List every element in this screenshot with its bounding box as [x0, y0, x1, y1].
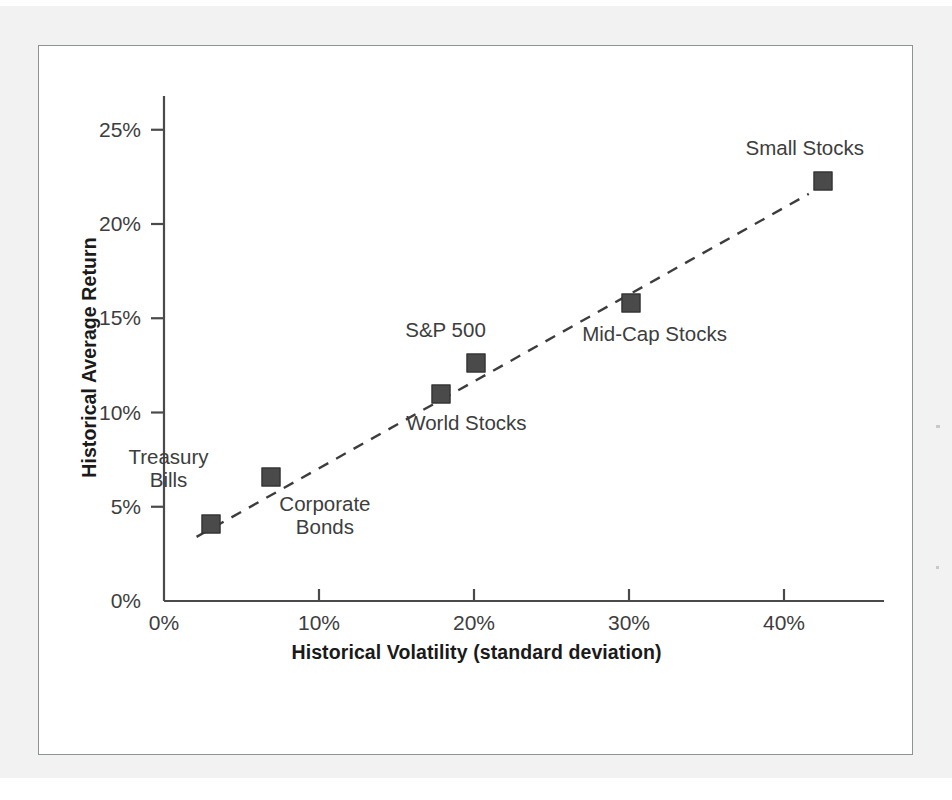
- data-point-label: Corporate Bonds: [279, 493, 370, 539]
- x-axis-tick-label: 10%: [298, 611, 340, 635]
- data-point-marker: [813, 171, 832, 190]
- x-axis-tick-label: 20%: [453, 611, 495, 635]
- trendline: [197, 194, 809, 537]
- x-axis-tick-label: 0%: [149, 611, 179, 635]
- data-point-marker: [261, 467, 280, 486]
- x-axis-tick-label: 40%: [763, 611, 805, 635]
- y-axis-tick-label: 10%: [59, 401, 141, 425]
- data-point-label: Small Stocks: [746, 137, 864, 160]
- data-point-label: World Stocks: [406, 412, 526, 435]
- scan-artifact-right-upper: [936, 425, 940, 428]
- y-axis-tick-label: 15%: [59, 306, 141, 330]
- x-axis-tick-label: 30%: [608, 611, 650, 635]
- scan-artifact-right-lower: [936, 566, 939, 569]
- data-point-marker: [201, 514, 220, 533]
- chart-panel: Historical Average Return Historical Vol…: [38, 45, 913, 755]
- data-point-marker: [432, 384, 451, 403]
- y-axis-tick-label: 0%: [59, 589, 141, 613]
- y-axis-title: Historical Average Return: [78, 193, 101, 523]
- data-point-marker: [621, 294, 640, 313]
- data-point-label: Treasury Bills: [128, 446, 208, 492]
- figure-page: Historical Average Return Historical Vol…: [0, 0, 952, 800]
- y-axis-tick-label: 25%: [59, 118, 141, 142]
- x-axis-title: Historical Volatility (standard deviatio…: [39, 641, 914, 664]
- y-axis-tick-label: 20%: [59, 212, 141, 236]
- x-axis-ticks: [319, 589, 784, 601]
- data-point-label: Mid-Cap Stocks: [582, 323, 727, 346]
- page-edge-top: [0, 0, 952, 6]
- data-point-marker: [466, 354, 485, 373]
- page-edge-bottom: [0, 778, 952, 800]
- data-point-label: S&P 500: [405, 319, 486, 342]
- y-axis-tick-label: 5%: [59, 495, 141, 519]
